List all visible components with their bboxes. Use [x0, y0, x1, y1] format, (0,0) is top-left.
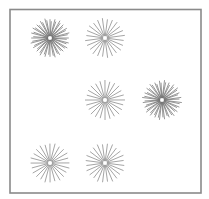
starburst-group: [31, 19, 181, 182]
starburst-5: [31, 144, 69, 182]
starburst-3: [85, 80, 124, 119]
starburst-4: [143, 81, 182, 120]
stimulus-canvas: [0, 0, 209, 199]
starburst-2: [86, 19, 125, 58]
starburst-6: [86, 144, 124, 182]
starburst-1: [31, 19, 69, 57]
